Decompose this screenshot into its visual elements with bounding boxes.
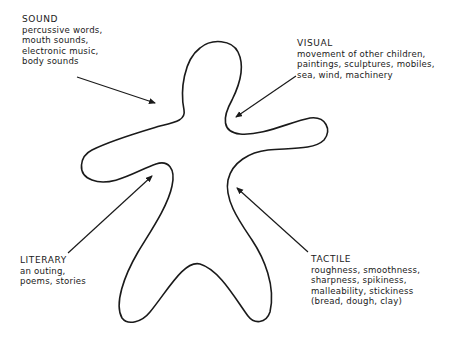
literary-line: poems, stories xyxy=(20,276,86,287)
tactile-line: sharpness, spikiness, xyxy=(311,275,420,286)
sound-title: SOUND xyxy=(22,14,102,25)
sound-line: mouth sounds, xyxy=(22,35,102,46)
sound-label: SOUND percussive words, mouth sounds, el… xyxy=(22,14,102,67)
tactile-label: TACTILE roughness, smoothness, sharpness… xyxy=(311,254,420,307)
visual-line: paintings, sculptures, mobiles, xyxy=(297,59,435,70)
tactile-line: malleability, stickiness xyxy=(311,286,420,297)
visual-line: sea, wind, machinery xyxy=(297,70,435,81)
sound-arrow xyxy=(77,77,155,103)
tactile-arrow xyxy=(237,188,308,252)
sound-line: percussive words, xyxy=(22,25,102,36)
literary-title: LITERARY xyxy=(20,255,86,266)
visual-label: VISUAL movement of other children, paint… xyxy=(297,38,435,80)
tactile-line: roughness, smoothness, xyxy=(311,265,420,276)
visual-title: VISUAL xyxy=(297,38,435,49)
sound-line: electronic music, xyxy=(22,46,102,57)
visual-arrow xyxy=(236,76,296,117)
literary-label: LITERARY an outing, poems, stories xyxy=(20,255,86,287)
visual-line: movement of other children, xyxy=(297,49,435,60)
literary-arrow xyxy=(68,176,152,253)
sound-line: body sounds xyxy=(22,56,102,67)
tactile-line: (bread, dough, clay) xyxy=(311,296,420,307)
tactile-title: TACTILE xyxy=(311,254,420,265)
literary-line: an outing, xyxy=(20,266,86,277)
body-outline xyxy=(81,42,327,323)
